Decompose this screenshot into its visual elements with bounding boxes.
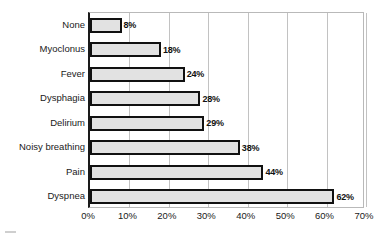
x-tick-label: 0% [81, 210, 95, 221]
bar[interactable]: 18% [90, 42, 161, 57]
category-label: Fever [61, 61, 85, 86]
bar-row: 44% [90, 160, 363, 185]
category-axis-labels: NoneMyoclonusFeverDysphagiaDeliriumNoisy… [0, 12, 85, 208]
category-label: Delirium [50, 110, 85, 135]
x-tick-label: 40% [236, 210, 255, 221]
bar-row: 38% [90, 136, 363, 161]
scan-artifact [5, 231, 16, 233]
x-tick-label: 30% [197, 210, 216, 221]
plot-area: 8%18%24%28%29%38%44%62% [88, 12, 364, 208]
x-tick-label: 10% [118, 210, 137, 221]
bar-row: 28% [90, 87, 363, 112]
bar-value-label: 18% [163, 45, 180, 55]
bar-row: 62% [90, 185, 363, 210]
category-label: Dysphagia [40, 86, 85, 111]
bar[interactable]: 44% [90, 165, 263, 180]
bar-value-label: 62% [336, 192, 353, 202]
bar[interactable]: 28% [90, 91, 200, 106]
bar-rows: 8%18%24%28%29%38%44%62% [90, 13, 363, 207]
category-label: Myoclonus [40, 37, 85, 62]
x-axis-tick-labels: 0%10%20%30%40%50%60%70% [88, 210, 364, 226]
bar[interactable]: 62% [90, 189, 334, 204]
gridline [366, 13, 367, 207]
category-label: Pain [66, 159, 85, 184]
bar-value-label: 44% [265, 167, 282, 177]
bar-value-label: 24% [187, 69, 204, 79]
bar-chart: NoneMyoclonusFeverDysphagiaDeliriumNoisy… [0, 0, 383, 239]
category-label: Dyspnea [48, 184, 86, 209]
bar-value-label: 28% [202, 94, 219, 104]
bar-row: 24% [90, 62, 363, 87]
bar[interactable]: 8% [90, 18, 122, 33]
x-tick-label: 60% [315, 210, 334, 221]
bar-value-label: 29% [206, 118, 223, 128]
bar-row: 18% [90, 38, 363, 63]
x-tick-label: 20% [157, 210, 176, 221]
bar[interactable]: 24% [90, 67, 185, 82]
bar-value-label: 8% [124, 20, 137, 30]
bar[interactable]: 38% [90, 140, 240, 155]
bar-row: 29% [90, 111, 363, 136]
category-label: None [62, 12, 85, 37]
bar-row: 8% [90, 13, 363, 38]
category-label: Noisy breathing [19, 135, 85, 160]
bar[interactable]: 29% [90, 116, 204, 131]
x-tick-label: 70% [354, 210, 373, 221]
bar-value-label: 38% [242, 143, 259, 153]
x-tick-label: 50% [276, 210, 295, 221]
